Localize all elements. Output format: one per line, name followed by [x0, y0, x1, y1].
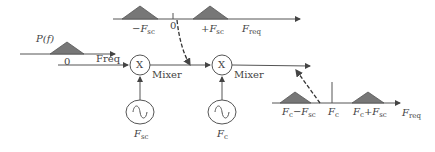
- subcarrier-spectrum: [113, 6, 300, 19]
- oscillator-fc-label: Fc: [217, 129, 228, 141]
- dashed-arrow-subcarrier: [177, 20, 190, 65]
- mixer2-symbol: X: [218, 60, 225, 70]
- oscillator-fsc-label: Fsc: [134, 129, 148, 141]
- subcarrier-axis-label: Freq: [242, 24, 261, 36]
- lower-sideband-label: Fc−Fsc: [282, 107, 316, 119]
- mixer2-label: Mixer: [234, 70, 264, 80]
- mixer2-output-line: [232, 65, 310, 66]
- oscillator-fc: [208, 77, 236, 124]
- input-axis-label: Freq: [96, 54, 120, 64]
- mixer1-label: Mixer: [152, 70, 182, 80]
- subcarrier-zero-label: 0: [170, 21, 176, 31]
- output-axis-label: Freq: [402, 108, 421, 120]
- mixer1-symbol: X: [136, 60, 143, 70]
- output-spectrum: [272, 82, 400, 103]
- neg-fsc-label: −Fsc: [132, 24, 155, 36]
- input-zero-label: 0: [64, 57, 70, 67]
- carrier-label: Fc: [328, 107, 339, 119]
- input-spectrum-title: P(f): [36, 34, 54, 44]
- upper-sideband-label: Fc+Fsc: [353, 107, 387, 119]
- oscillator-fsc: [126, 77, 154, 124]
- pos-fsc-label: +Fsc: [201, 24, 224, 36]
